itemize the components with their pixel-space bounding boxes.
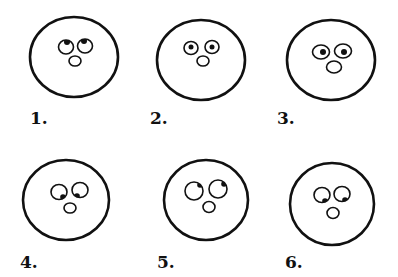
left-eye [51, 185, 67, 200]
left-eye [313, 45, 330, 59]
face-4 [23, 160, 109, 240]
nose [64, 203, 76, 213]
right-eye [335, 44, 352, 58]
face-label-5: 5. [157, 254, 175, 271]
faces-diagram [0, 0, 398, 277]
pupil [189, 45, 194, 50]
right-eye [334, 187, 350, 203]
head-outline [287, 20, 375, 100]
nose [203, 202, 215, 213]
left-eye [314, 188, 330, 204]
nose [327, 61, 342, 73]
head-outline [164, 160, 248, 240]
pupil [341, 49, 347, 55]
face-label-3: 3. [277, 110, 295, 127]
nose [327, 208, 339, 219]
face-1 [30, 17, 118, 97]
right-eye [205, 41, 219, 54]
pupil [320, 49, 326, 55]
nose [69, 56, 81, 66]
right-eye [209, 180, 227, 198]
face-label-6: 6. [285, 254, 303, 271]
left-eye [184, 42, 198, 55]
head-outline [23, 160, 109, 240]
face-6 [290, 163, 374, 245]
face-3 [287, 20, 375, 100]
face-5 [164, 160, 248, 240]
right-eye [72, 183, 88, 199]
face-2 [157, 20, 245, 100]
nose [197, 56, 209, 66]
face-label-1: 1. [30, 110, 48, 127]
head-outline [290, 163, 374, 245]
left-eye [185, 182, 203, 200]
face-label-2: 2. [150, 110, 168, 127]
right-eye [78, 38, 93, 53]
pupil [210, 45, 215, 50]
face-label-4: 4. [20, 254, 38, 271]
left-eye [59, 39, 74, 54]
